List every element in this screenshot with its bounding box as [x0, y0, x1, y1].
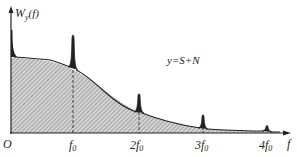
tick-label-f0: f0 [69, 138, 76, 153]
x-axis-arrow-icon [283, 131, 291, 136]
tick-label-2f0: 2f0 [130, 138, 143, 153]
origin-label: O [3, 137, 12, 151]
noise-spectrum-area [11, 58, 275, 133]
peak-4f0 [262, 126, 272, 133]
spectrum-chart: Wy(f) y=S+N O f0 2f0 3f0 4f0 f [0, 0, 297, 157]
peak-zero [11, 30, 17, 57]
y-axis-label: Wy(f) [15, 6, 39, 22]
annotation-label: y=S+N [166, 54, 200, 66]
peak-f0 [68, 35, 78, 70]
x-axis-label: f [287, 137, 292, 151]
peak-2f0 [134, 94, 144, 113]
y-axis-arrow-icon [9, 6, 14, 13]
tick-label-3f0: 3f0 [194, 138, 208, 153]
tick-label-4f0: 4f0 [259, 138, 272, 153]
peak-3f0 [198, 115, 208, 129]
